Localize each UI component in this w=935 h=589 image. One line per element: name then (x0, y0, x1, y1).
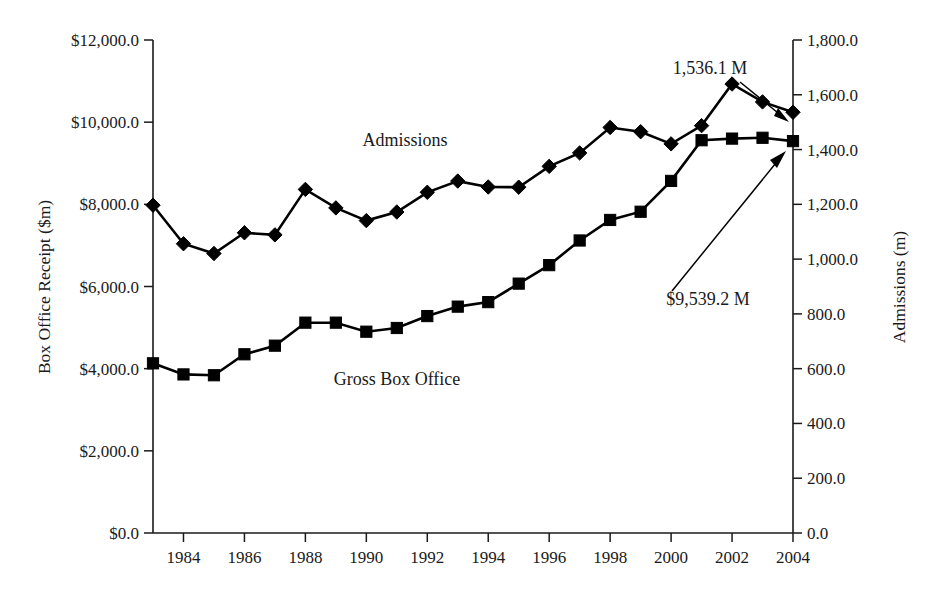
data-point-marker (208, 370, 219, 381)
series-markers-admissions (146, 77, 800, 261)
left-tick-label: $0.0 (109, 524, 139, 543)
right-axis-title: Admissions (m) (889, 231, 909, 343)
left-tick-label: $6,000.0 (80, 278, 140, 297)
x-tick-label: 2004 (776, 548, 811, 567)
left-tick-label: $12,000.0 (71, 31, 139, 50)
right-tick-label: 200.0 (807, 469, 845, 488)
right-tick-label: 1,800.0 (807, 31, 858, 50)
data-point-marker (359, 213, 373, 227)
plot-frame (153, 40, 793, 533)
data-point-marker (178, 369, 189, 380)
data-point-marker (787, 135, 798, 146)
x-tick-label: 1988 (288, 548, 322, 567)
data-point-marker (420, 185, 434, 199)
right-axis-tick-labels: 0.0200.0400.0600.0800.01,000.01,200.01,4… (807, 31, 858, 543)
right-tick-label: 1,000.0 (807, 250, 858, 269)
data-point-marker (269, 340, 280, 351)
series-label-gross-box-office: Gross Box Office (334, 369, 461, 389)
data-point-marker (605, 214, 616, 225)
data-point-marker (574, 235, 585, 246)
data-point-marker (635, 206, 646, 217)
data-point-marker (298, 182, 312, 196)
right-tick-label: 0.0 (807, 524, 828, 543)
data-point-marker (239, 349, 250, 360)
annotation-gross-label: $9,539.2 M (666, 289, 750, 309)
data-point-marker (544, 260, 555, 271)
data-point-marker (390, 205, 404, 219)
left-tick-label: $10,000.0 (71, 113, 139, 132)
data-point-marker (422, 310, 433, 321)
x-tick-label: 1984 (166, 548, 201, 567)
right-tick-label: 400.0 (807, 414, 845, 433)
x-axis-ticks (183, 533, 793, 542)
data-point-marker (483, 297, 494, 308)
data-point-marker (512, 180, 526, 194)
data-point-marker (300, 317, 311, 328)
data-point-marker (786, 105, 800, 119)
x-tick-label: 2002 (715, 548, 749, 567)
data-point-marker (268, 228, 282, 242)
x-tick-label: 1992 (410, 548, 444, 567)
x-tick-label: 1990 (349, 548, 383, 567)
annotation-gross-endpoint: $9,539.2 M (666, 151, 786, 309)
series-label-admissions: Admissions (362, 130, 447, 150)
data-point-marker (513, 278, 524, 289)
annotation-gross-arrow-head (770, 151, 786, 168)
left-axis-tick-labels: $0.0$2,000.0$4,000.0$6,000.0$8,000.0$10,… (71, 31, 139, 543)
data-point-marker (451, 174, 465, 188)
x-tick-label: 1986 (227, 548, 261, 567)
data-point-marker (726, 133, 737, 144)
data-point-marker (147, 358, 158, 369)
x-axis-tick-labels: 1984198619881990199219941996199820002002… (166, 548, 810, 567)
left-tick-label: $8,000.0 (80, 195, 140, 214)
x-tick-label: 1996 (532, 548, 566, 567)
chart-container: $0.0$2,000.0$4,000.0$6,000.0$8,000.0$10,… (0, 0, 935, 589)
series-line-gross-box-office (153, 138, 793, 375)
dual-axis-line-chart: $0.0$2,000.0$4,000.0$6,000.0$8,000.0$10,… (0, 0, 935, 589)
annotation-admissions-label: 1,536.1 M (673, 58, 748, 78)
left-axis-title: Box Office Receipt ($m) (34, 200, 54, 374)
x-tick-label: 1994 (471, 548, 506, 567)
annotation-gross-arrow-line (672, 158, 780, 291)
left-tick-label: $2,000.0 (80, 442, 140, 461)
data-point-marker (207, 246, 221, 260)
data-point-marker (330, 317, 341, 328)
right-tick-label: 600.0 (807, 360, 845, 379)
data-point-marker (696, 135, 707, 146)
left-tick-label: $4,000.0 (80, 360, 140, 379)
data-point-marker (329, 201, 343, 215)
right-tick-label: 800.0 (807, 305, 845, 324)
right-tick-label: 1,600.0 (807, 86, 858, 105)
data-point-marker (391, 322, 402, 333)
data-point-marker (452, 301, 463, 312)
data-point-marker (481, 180, 495, 194)
data-point-marker (633, 124, 647, 138)
left-axis-ticks (144, 40, 153, 533)
right-tick-label: 1,400.0 (807, 141, 858, 160)
data-point-marker (361, 326, 372, 337)
right-tick-label: 1,200.0 (807, 195, 858, 214)
series-line-admissions (153, 84, 793, 254)
x-tick-label: 2000 (654, 548, 688, 567)
data-point-marker (237, 226, 251, 240)
data-point-marker (665, 175, 676, 186)
x-tick-label: 1998 (593, 548, 627, 567)
data-point-marker (757, 132, 768, 143)
data-point-marker (664, 137, 678, 151)
